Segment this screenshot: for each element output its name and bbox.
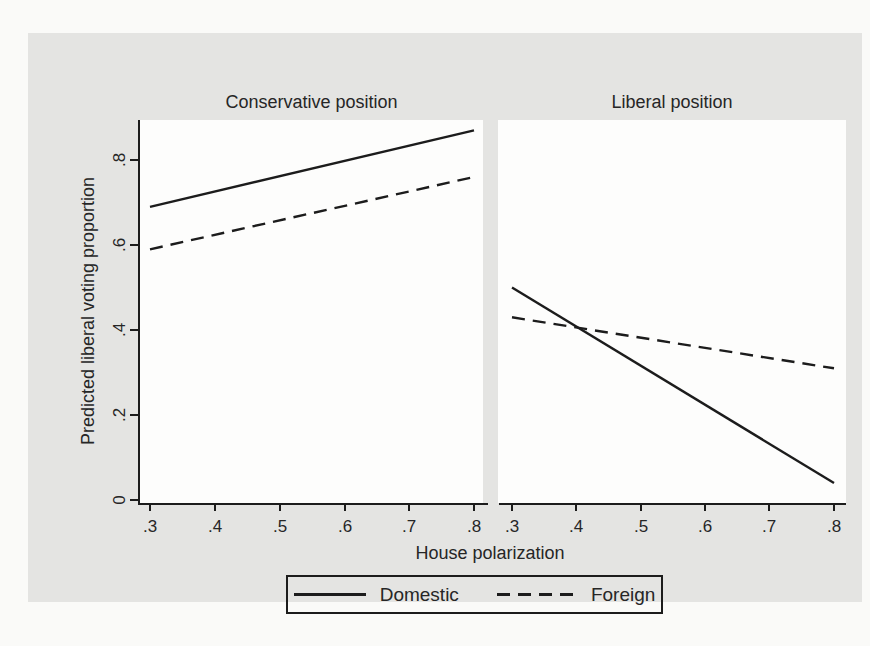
x-tick <box>408 505 410 511</box>
series-line-foreign <box>512 317 834 368</box>
panel-title-liberal: Liberal position <box>498 90 846 114</box>
y-tick-label: .2 <box>110 408 130 422</box>
x-tick <box>473 505 475 511</box>
x-tick-label: .6 <box>328 517 362 537</box>
x-tick-label: .4 <box>559 517 593 537</box>
series-line-domestic <box>150 130 474 207</box>
x-tick <box>768 505 770 511</box>
legend-box: Domestic Foreign <box>286 575 663 614</box>
x-tick <box>149 505 151 511</box>
y-tick <box>130 329 138 331</box>
y-tick <box>130 499 138 501</box>
x-tick-label: .7 <box>392 517 426 537</box>
x-tick <box>704 505 706 511</box>
panel-title-conservative: Conservative position <box>140 90 483 114</box>
line-chart-conservative <box>140 120 483 503</box>
x-tick <box>511 505 513 511</box>
x-tick <box>279 505 281 511</box>
x-tick <box>214 505 216 511</box>
x-tick-label: .8 <box>817 517 851 537</box>
y-tick-label: 0 <box>110 495 130 504</box>
y-tick <box>130 414 138 416</box>
x-tick <box>575 505 577 511</box>
x-axis-line-right <box>499 503 846 505</box>
x-axis-line-left <box>138 503 488 505</box>
x-tick-label: .4 <box>198 517 232 537</box>
y-axis-line <box>138 120 140 505</box>
line-chart-liberal <box>498 120 846 503</box>
x-tick-label: .6 <box>688 517 722 537</box>
x-tick <box>640 505 642 511</box>
legend-solid-line-sample <box>294 593 366 596</box>
y-tick <box>130 159 138 161</box>
x-tick <box>344 505 346 511</box>
y-tick-label: .4 <box>110 323 130 337</box>
x-tick-label: .8 <box>457 517 491 537</box>
y-tick-label: .6 <box>110 238 130 252</box>
y-axis-title: Predicted liberal voting proportion <box>78 177 99 445</box>
series-line-domestic <box>512 288 834 484</box>
y-tick-label: .8 <box>110 153 130 167</box>
legend-dashed-line-sample <box>497 593 577 596</box>
x-tick-label: .3 <box>133 517 167 537</box>
x-tick-label: .5 <box>624 517 658 537</box>
series-line-foreign <box>150 177 474 249</box>
x-tick-label: .7 <box>752 517 786 537</box>
x-axis-title: House polarization <box>340 543 640 564</box>
legend-label-foreign: Foreign <box>591 584 655 606</box>
x-tick-label: .3 <box>495 517 529 537</box>
chart-figure: Conservative position Liberal position 0… <box>28 33 862 602</box>
legend-label-domestic: Domestic <box>380 584 459 606</box>
x-tick-label: .5 <box>263 517 297 537</box>
y-tick <box>130 244 138 246</box>
x-tick <box>833 505 835 511</box>
